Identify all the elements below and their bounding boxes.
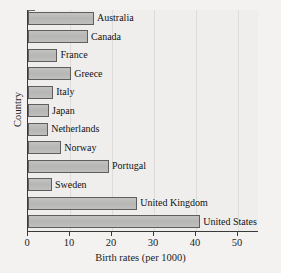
x-tick-40 — [195, 232, 196, 236]
bar-norway — [28, 141, 61, 154]
bar-france — [28, 49, 57, 62]
plot-area: AustraliaCanadaFranceGreeceItalyJapanNet… — [27, 10, 258, 232]
bar-label: Greece — [74, 69, 102, 79]
bar-label: Portugal — [112, 161, 146, 171]
x-tick-50 — [237, 232, 238, 236]
bar-row: United Kingdom — [28, 196, 208, 210]
bar-label: Netherlands — [51, 124, 99, 134]
x-tick-label-10: 10 — [64, 237, 75, 248]
x-tick-0 — [27, 232, 28, 236]
bar-portugal — [28, 160, 109, 173]
x-tick-label-20: 20 — [106, 237, 117, 248]
x-tick-10 — [69, 232, 70, 236]
bar-row: Canada — [28, 30, 121, 44]
bar-canada — [28, 30, 88, 43]
bar-row: Australia — [28, 11, 134, 25]
x-tick-label-40: 40 — [190, 237, 201, 248]
x-tick-30 — [153, 232, 154, 236]
bar-sweden — [28, 178, 52, 191]
x-tick-label-30: 30 — [148, 237, 159, 248]
y-axis-title: Country — [12, 55, 23, 165]
bar-united-states — [28, 215, 200, 228]
bar-label: Canada — [91, 32, 121, 42]
bar-label: United States — [203, 217, 257, 227]
bar-label: Australia — [97, 13, 134, 23]
bar-label: Japan — [52, 106, 75, 116]
bar-row: Norway — [28, 141, 96, 155]
bar-netherlands — [28, 123, 48, 136]
bar-label: Italy — [56, 87, 74, 97]
bar-row: Portugal — [28, 159, 146, 173]
bar-label: United Kingdom — [140, 198, 208, 208]
bar-label: France — [60, 50, 87, 60]
bar-italy — [28, 86, 53, 99]
bar-label: Norway — [64, 143, 96, 153]
bar-australia — [28, 12, 94, 25]
bar-united-kingdom — [28, 197, 137, 210]
bar-greece — [28, 67, 71, 80]
x-tick-label-0: 0 — [24, 237, 29, 248]
bar-label: Sweden — [55, 180, 87, 190]
bar-row: Italy — [28, 85, 75, 99]
x-tick-20 — [111, 232, 112, 236]
bar-chart-figure: Country AustraliaCanadaFranceGreeceItaly… — [0, 0, 281, 273]
gridline-x-50 — [238, 10, 239, 231]
x-axis-title: Birth rates (per 1000) — [0, 252, 281, 263]
x-tick-label-50: 50 — [232, 237, 243, 248]
bar-row: France — [28, 48, 88, 62]
bar-row: Japan — [28, 104, 75, 118]
bar-row: Netherlands — [28, 122, 99, 136]
bar-japan — [28, 104, 49, 117]
bar-row: Greece — [28, 67, 103, 81]
bar-row: Sweden — [28, 178, 87, 192]
bar-row: United States — [28, 215, 257, 229]
